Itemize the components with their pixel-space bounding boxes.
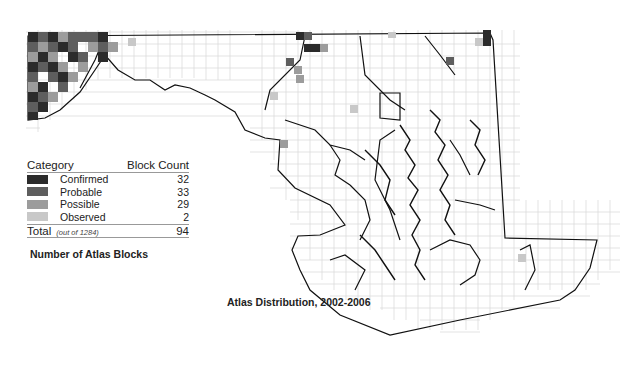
total-count: 94 (176, 225, 189, 237)
legend-label: Confirmed (60, 173, 177, 185)
legend-subtitle: Number of Atlas Blocks (30, 248, 148, 260)
legend-header-count: Block Count (127, 159, 189, 171)
legend: Category Block Count Confirmed 32 Probab… (27, 159, 189, 238)
legend-label: Possible (60, 198, 177, 210)
legend-row-confirmed: Confirmed 32 (27, 173, 189, 186)
confirmed-swatch-icon (27, 175, 48, 184)
legend-row-probable: Probable 33 (27, 186, 189, 199)
legend-row-observed: Observed 2 (27, 211, 189, 224)
total-note: (out of 1284) (56, 228, 99, 237)
observed-swatch-icon (27, 212, 48, 221)
probable-swatch-icon (27, 187, 48, 196)
legend-count: 32 (177, 173, 189, 185)
legend-header: Category Block Count (27, 159, 189, 173)
legend-label: Observed (60, 211, 183, 223)
legend-count: 33 (177, 186, 189, 198)
legend-row-possible: Possible 29 (27, 198, 189, 211)
legend-count: 2 (183, 211, 189, 223)
possible-swatch-icon (27, 200, 48, 209)
legend-total-row: Total(out of 1284) 94 (27, 224, 189, 238)
legend-count: 29 (177, 198, 189, 210)
legend-label: Probable (60, 186, 177, 198)
total-label: Total (27, 225, 51, 237)
legend-header-category: Category (27, 159, 74, 171)
map-title: Atlas Distribution, 2002-2006 (227, 296, 371, 308)
